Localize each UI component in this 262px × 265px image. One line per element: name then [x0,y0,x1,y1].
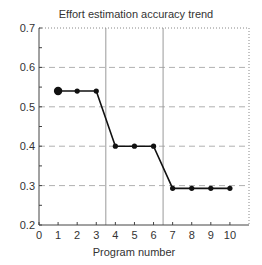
x-tick-label: 5 [131,229,137,241]
vertical-separators [106,28,163,225]
x-tick-label: 9 [208,229,214,241]
y-tick-label: 0.3 [20,180,35,192]
y-tick-label: 0.7 [20,22,35,34]
data-point [151,144,156,149]
x-tick-label: 10 [224,229,236,241]
data-point [94,88,99,93]
x-tick-label: 0 [36,229,42,241]
data-point [113,144,118,149]
plot-frame [39,28,249,225]
data-point [132,144,137,149]
x-tick-label: 8 [189,229,195,241]
grid-lines [39,67,249,185]
x-tick-label: 3 [93,229,99,241]
y-tick-label: 0.4 [20,140,35,152]
x-tick-label: 6 [150,229,156,241]
y-axis: 0.20.30.40.50.60.7 [20,22,42,231]
data-point [189,186,194,191]
data-point [170,186,175,191]
x-axis-label: Program number [93,246,176,258]
y-tick-label: 0.2 [20,219,35,231]
x-tick-label: 2 [74,229,80,241]
x-tick-label: 1 [55,229,61,241]
y-tick-label: 0.5 [20,101,35,113]
x-axis: 012345678910 [36,222,249,241]
chart-title: Effort estimation accuracy trend [59,8,213,20]
data-series [54,87,233,191]
x-tick-label: 7 [170,229,176,241]
data-point [75,88,80,93]
series-line [58,91,230,188]
data-point [227,186,232,191]
chart: Effort estimation accuracy trend 0.20.30… [0,0,262,265]
data-point [208,186,213,191]
data-point [54,87,62,95]
y-tick-label: 0.6 [20,61,35,73]
x-tick-label: 4 [112,229,118,241]
